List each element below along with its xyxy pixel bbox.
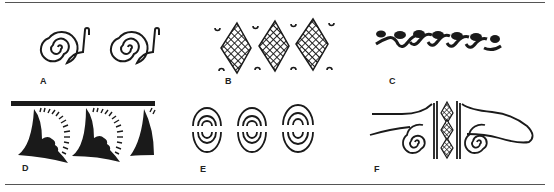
panel-b: B [185,0,370,92]
panel-a: A [0,0,185,92]
panel-label-e: E [200,165,206,174]
split-ovals-icon [185,92,370,184]
winged-spiral-motif-icon [370,92,554,184]
hatched-diamonds-icon [185,0,370,92]
panel-label-d: D [22,164,29,173]
panel-label-c: C [389,77,396,86]
panel-f: F [370,92,554,184]
panel-label-b: B [225,77,232,86]
panel-label-f: F [374,165,380,174]
wave-scroll-icon [370,0,554,92]
panel-d: D [0,92,185,184]
bottom-rule [5,184,545,185]
spiral-pair-icon [0,0,185,92]
panel-label-a: A [40,77,47,86]
panel-e: E [185,92,370,184]
panel-c: C [370,0,554,92]
